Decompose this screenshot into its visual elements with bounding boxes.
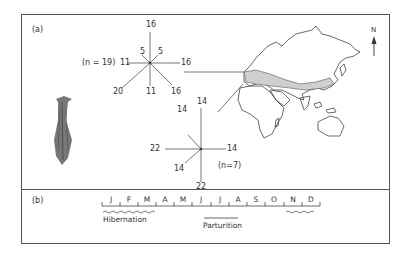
rose-2-nw: 14: [177, 105, 187, 114]
month-may: M: [174, 195, 192, 204]
month-jul: J: [211, 195, 229, 204]
rose-2-s: 22: [196, 182, 206, 191]
hibernation-wave-jan-mar: [103, 211, 155, 213]
rose-2-sw: 14: [174, 164, 184, 173]
rose-2-n-count: (n=7): [218, 161, 241, 170]
hibernation-wave-nov-dec: [286, 211, 314, 213]
month-dec: D: [302, 195, 320, 204]
month-jan: J: [102, 195, 120, 204]
bat-illustration: [54, 96, 72, 165]
rose-2-n: 14: [197, 97, 207, 106]
rose-1-n-count: (n = 19): [82, 58, 115, 67]
rose-1-n: 16: [146, 20, 156, 29]
north-label: N: [371, 26, 376, 34]
rose-1-lines: [122, 32, 180, 88]
rose-1-e: 16: [181, 58, 191, 67]
rose-2-w: 22: [150, 144, 160, 153]
month-jun: J: [192, 195, 210, 204]
diagram-graphics: [0, 0, 410, 256]
species-range: [244, 70, 334, 90]
rose-2-e: 14: [227, 144, 237, 153]
parturition-label: Parturition: [203, 221, 242, 230]
rose-1-nw: 5: [140, 47, 145, 56]
month-aug: A: [229, 195, 247, 204]
rose-1-w: 11: [120, 58, 130, 67]
month-sep: S: [247, 195, 265, 204]
month-nov: N: [284, 195, 302, 204]
rose-1-se: 16: [171, 87, 181, 96]
rose-1-s: 11: [146, 87, 156, 96]
month-oct: O: [265, 195, 283, 204]
rose-1-sw: 20: [113, 87, 123, 96]
panel-b-label: (b): [32, 196, 43, 205]
month-mar: M: [138, 195, 156, 204]
rose-1-ne: 5: [158, 47, 163, 56]
month-apr: A: [156, 195, 174, 204]
month-feb: F: [120, 195, 138, 204]
hibernation-label: Hibernation: [103, 215, 147, 224]
